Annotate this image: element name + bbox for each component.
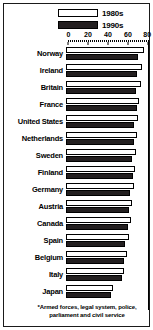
bar-group	[66, 182, 146, 198]
bar-group	[66, 165, 146, 181]
bar-1990s	[66, 122, 134, 128]
bar-1980s	[66, 234, 129, 240]
bar-1990s	[66, 258, 124, 264]
bar-1990s	[66, 71, 137, 77]
bar-group	[66, 267, 146, 283]
bar-1990s	[66, 139, 134, 145]
bar-1990s	[66, 275, 122, 281]
bar-1990s	[66, 54, 138, 60]
x-axis-tick-label: 60	[124, 31, 132, 39]
bar-row: Norway	[4, 45, 149, 62]
bar-1980s	[66, 200, 132, 206]
bar-group	[66, 131, 146, 147]
bar-1990s	[66, 173, 133, 179]
bar-group	[66, 148, 146, 164]
x-axis-tick-label: 80	[143, 31, 151, 39]
bar-row: Finland	[4, 164, 149, 181]
chart-legend: 1980s 1990s	[58, 8, 146, 32]
bar-1980s	[66, 115, 138, 121]
bar-group	[66, 63, 146, 79]
bar-1980s	[66, 166, 135, 172]
bar-1980s	[66, 251, 127, 257]
x-axis-tick-label: 0	[66, 31, 70, 39]
bar-group	[66, 97, 146, 113]
bar-row: France	[4, 96, 149, 113]
category-label: Spain	[4, 236, 66, 245]
bar-1980s	[66, 217, 131, 223]
bar-row: Italy	[4, 266, 149, 283]
bar-row: Netherlands	[4, 130, 149, 147]
category-label: Britain	[4, 83, 66, 92]
category-label: Germany	[4, 185, 66, 194]
bar-group	[66, 80, 146, 96]
bar-group	[66, 216, 146, 232]
bar-row: Ireland	[4, 62, 149, 79]
bar-row: Spain	[4, 232, 149, 249]
legend-swatch-1990s	[58, 21, 98, 29]
bar-row: Canada	[4, 215, 149, 232]
category-label: United States	[4, 117, 66, 126]
bar-1980s	[66, 183, 134, 189]
bar-1990s	[66, 156, 132, 162]
bar-1990s	[66, 224, 128, 230]
category-label: Canada	[4, 219, 66, 228]
legend-swatch-1980s	[58, 9, 98, 17]
category-label: Sweden	[4, 151, 66, 160]
x-axis-tick-label: 40	[104, 31, 112, 39]
bar-group	[66, 250, 146, 266]
bar-row: Britain	[4, 79, 149, 96]
bar-row: Belgium	[4, 249, 149, 266]
bar-1980s	[66, 285, 113, 291]
x-axis-tick-label: 20	[84, 31, 92, 39]
bar-row: Japan	[4, 283, 149, 300]
bar-group	[66, 114, 146, 130]
bar-group	[66, 284, 146, 300]
category-label: Belgium	[4, 253, 66, 262]
bar-1980s	[66, 132, 137, 138]
chart-container: 1980s 1990s 020406080 NorwayIrelandBrita…	[3, 3, 150, 327]
bar-1990s	[66, 207, 129, 213]
category-label: Netherlands	[4, 134, 66, 143]
category-label: Ireland	[4, 66, 66, 75]
legend-label-1990s: 1990s	[102, 21, 123, 30]
chart-footnote: *Armed forces, legal system, police, par…	[28, 304, 146, 319]
bar-group	[66, 46, 146, 62]
bar-1990s	[66, 292, 111, 298]
bar-1980s	[66, 149, 136, 155]
bar-1990s	[66, 190, 130, 196]
category-label: Austria	[4, 202, 66, 211]
bar-group	[66, 199, 146, 215]
bar-1980s	[66, 98, 139, 104]
bar-row: United States	[4, 113, 149, 130]
bar-1980s	[66, 47, 144, 53]
x-axis-tick-labels: 020406080	[68, 31, 148, 40]
bar-group	[66, 233, 146, 249]
category-label: France	[4, 100, 66, 109]
bar-1980s	[66, 64, 142, 70]
category-label: Finland	[4, 168, 66, 177]
bar-1980s	[66, 268, 124, 274]
bar-1980s	[66, 81, 141, 87]
bar-row: Sweden	[4, 147, 149, 164]
plot-area: NorwayIrelandBritainFranceUnited StatesN…	[4, 45, 149, 326]
bar-1990s	[66, 105, 137, 111]
category-label: Norway	[4, 49, 66, 58]
bar-1990s	[66, 241, 125, 247]
bar-row: Germany	[4, 181, 149, 198]
x-axis: 020406080	[68, 31, 148, 45]
legend-entry-1990s: 1990s	[58, 20, 146, 30]
bar-row: Austria	[4, 198, 149, 215]
legend-label-1980s: 1980s	[102, 9, 123, 18]
category-label: Japan	[4, 287, 66, 296]
legend-entry-1980s: 1980s	[58, 8, 146, 18]
category-label: Italy	[4, 270, 66, 279]
bar-1990s	[66, 88, 136, 94]
